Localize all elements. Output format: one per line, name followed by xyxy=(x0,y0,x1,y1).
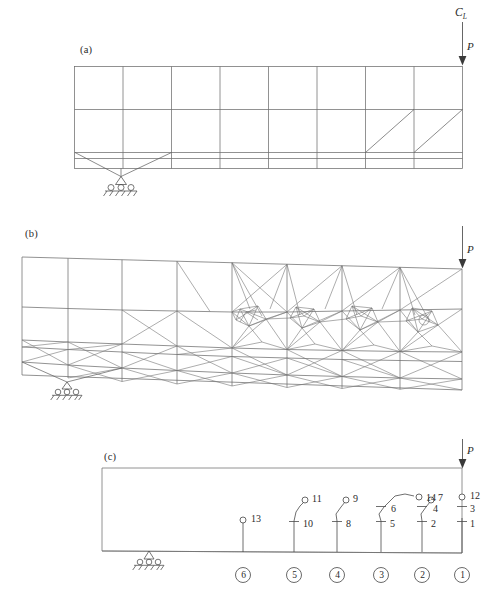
group-label-1: 1 xyxy=(455,568,470,583)
node-label-12: 12 xyxy=(470,490,480,501)
node-label-8: 8 xyxy=(346,518,351,529)
support-symbol-c xyxy=(133,551,164,570)
panel-b-mesh xyxy=(0,212,496,427)
panel-a-mesh xyxy=(0,0,496,210)
load-arrow-b xyxy=(459,226,467,269)
node-label-4: 4 xyxy=(433,503,438,514)
group-label-2: 2 xyxy=(415,568,430,583)
group-label-5: 5 xyxy=(287,568,302,583)
support-symbol-b xyxy=(22,362,122,400)
node-label-10: 10 xyxy=(303,518,313,529)
support-symbol-a xyxy=(104,177,138,197)
node-label-6: 6 xyxy=(391,503,396,514)
group-label-6: 6 xyxy=(236,568,251,583)
load-arrow-c xyxy=(459,439,467,469)
node-label-1: 1 xyxy=(470,518,475,529)
node-label-2: 2 xyxy=(431,518,436,529)
load-arrow-a xyxy=(459,22,467,66)
figure-root: (a) CL P xyxy=(0,0,496,599)
node-label-7: 7 xyxy=(438,492,443,503)
node-label-9: 9 xyxy=(353,493,358,504)
node-label-14: 14 xyxy=(426,492,436,503)
node-label-5: 5 xyxy=(390,518,395,529)
group-label-3: 3 xyxy=(374,568,389,583)
node-label-3: 3 xyxy=(470,503,475,514)
group-label-4: 4 xyxy=(330,568,345,583)
node-label-11: 11 xyxy=(312,493,322,504)
node-label-13: 13 xyxy=(251,513,261,524)
